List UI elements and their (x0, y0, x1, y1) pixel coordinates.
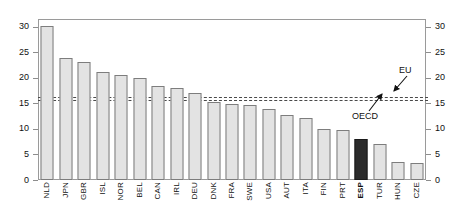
annotation-oecd-arrow (367, 90, 389, 114)
bar-nld (41, 26, 54, 180)
bar-nor (115, 75, 128, 180)
category-label-aut: AUT (283, 182, 291, 199)
y-tick-label: 30 (19, 22, 29, 31)
y-tick-label: 25 (19, 48, 29, 57)
category-label-usa: USA (265, 182, 273, 199)
bar-slot (408, 19, 426, 180)
bar-cze (410, 163, 423, 180)
category-label-esp: ESP (357, 182, 365, 199)
bar-slot (241, 19, 259, 180)
y-tick (426, 180, 431, 181)
y-tick-label: 20 (435, 73, 445, 82)
y-tick (426, 27, 431, 28)
y-tick-label: 30 (435, 22, 445, 31)
bar-isl (96, 72, 109, 180)
bar-slot (260, 19, 278, 180)
y-tick (426, 154, 431, 155)
annotation-eu-arrow (388, 74, 410, 96)
y-tick (426, 52, 431, 53)
category-label-prt: PRT (339, 182, 347, 198)
y-tick (33, 180, 38, 181)
bar-slot (56, 19, 74, 180)
bar-slot (167, 19, 185, 180)
bar-chart: 051015202530 051015202530 EU OECD NLDJPN… (0, 0, 475, 213)
y-tick-label: 10 (19, 124, 29, 133)
bar-dnk (207, 102, 220, 180)
bar-slot (112, 19, 130, 180)
category-label-nor: NOR (117, 182, 125, 200)
bar-prt (336, 130, 349, 180)
y-tick-label: 0 (435, 176, 440, 185)
bar-bel (133, 78, 146, 180)
y-tick (426, 129, 431, 130)
y-tick-label: 15 (19, 99, 29, 108)
y-tick-label: 10 (435, 124, 445, 133)
category-label-gbr: GBR (80, 182, 88, 200)
bar-slot (297, 19, 315, 180)
bar-gbr (78, 62, 91, 180)
category-label-nld: NLD (43, 182, 51, 199)
bar-esp (355, 139, 368, 180)
category-label-dnk: DNK (210, 182, 218, 200)
bar-ita (299, 118, 312, 180)
bar-swe (244, 105, 257, 180)
category-label-swe: SWE (246, 182, 254, 201)
bar-aut (281, 115, 294, 180)
category-label-deu: DEU (191, 182, 199, 200)
bar-can (152, 86, 165, 180)
y-tick-label: 5 (24, 150, 29, 159)
category-label-ita: ITA (302, 182, 310, 194)
bar-slot (223, 19, 241, 180)
bar-slot (278, 19, 296, 180)
y-tick-label: 0 (24, 176, 29, 185)
category-label-jpn: JPN (62, 182, 70, 198)
bar-slot (149, 19, 167, 180)
bar-usa (262, 109, 275, 180)
category-label-tur: TUR (376, 182, 384, 199)
x-axis-category-labels: NLDJPNGBRISLNORBELCANIRLDEUDNKFRASWEUSAA… (38, 182, 426, 213)
y-tick-label: 15 (435, 99, 445, 108)
bar-jpn (59, 58, 72, 180)
category-label-isl: ISL (99, 182, 107, 195)
y-tick-label: 25 (435, 48, 445, 57)
bar-slot (93, 19, 111, 180)
bar-slot (38, 19, 56, 180)
category-label-fin: FIN (320, 182, 328, 196)
bar-slot (186, 19, 204, 180)
category-label-bel: BEL (136, 182, 144, 198)
y-tick (426, 78, 431, 79)
bar-tur (373, 144, 386, 180)
category-label-hun: HUN (394, 182, 402, 200)
bar-slot (334, 19, 352, 180)
bar-slot (75, 19, 93, 180)
bar-slot (130, 19, 148, 180)
category-label-fra: FRA (228, 182, 236, 199)
bar-fin (318, 129, 331, 180)
bar-irl (170, 88, 183, 181)
y-tick (426, 103, 431, 104)
bar-slot (389, 19, 407, 180)
bar-deu (189, 93, 202, 180)
category-label-can: CAN (154, 182, 162, 200)
bar-hun (392, 162, 405, 180)
bar-slot (204, 19, 222, 180)
y-tick-label: 5 (435, 150, 440, 159)
bar-fra (225, 104, 238, 180)
category-label-irl: IRL (173, 182, 181, 195)
bar-slot (315, 19, 333, 180)
y-tick-label: 20 (19, 73, 29, 82)
category-label-cze: CZE (413, 182, 421, 199)
